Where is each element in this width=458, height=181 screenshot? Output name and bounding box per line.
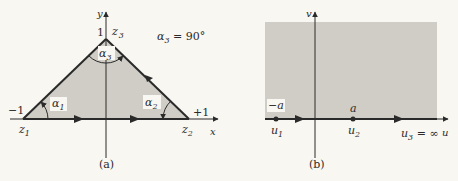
u1-label: u1 [271, 124, 283, 139]
point-u1-value: −a [268, 99, 284, 112]
y-axis-label: y [96, 8, 103, 19]
v-axis-label: v [306, 8, 312, 19]
z1-label: z1 [18, 123, 30, 138]
panel-b-caption: (b) [309, 158, 325, 171]
u3-label: u3 = ∞ [401, 127, 439, 142]
right-vertex-value: +1 [193, 106, 209, 119]
alpha3-annotation: α3 = 90° [157, 30, 205, 45]
apex-point-label: z3 [111, 25, 124, 40]
panel-a-triangle-domain: y 1 z3 α3 α1 α2 α3 = 90° −1 z1 +1 z2 x (… [8, 8, 218, 171]
point-u1 [274, 117, 279, 122]
left-vertex-value: −1 [8, 104, 24, 117]
point-u2-value: a [350, 102, 357, 115]
x-axis-label: x [210, 126, 216, 137]
panel-a-caption: (a) [99, 158, 114, 171]
point-u2 [351, 117, 356, 122]
u-axis-label: u [442, 127, 448, 138]
apex-value: 1 [97, 26, 104, 39]
conformal-mapping-figure: y 1 z3 α3 α1 α2 α3 = 90° −1 z1 +1 z2 x (… [0, 0, 458, 181]
z2-label: z2 [181, 123, 193, 138]
panel-b-upper-half-plane: v −a a u1 u2 u3 = ∞ u (b) [265, 8, 448, 171]
u2-label: u2 [348, 124, 360, 139]
